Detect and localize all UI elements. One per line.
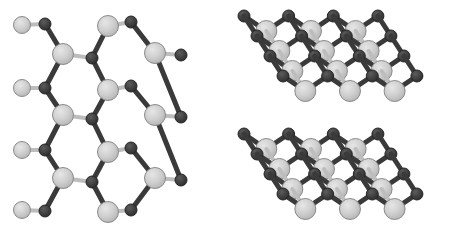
atom-sphere <box>175 111 187 123</box>
atom-sphere <box>39 205 51 217</box>
atom-light <box>145 168 166 189</box>
atom-dark <box>277 188 289 200</box>
atom-light <box>384 199 405 220</box>
atom-dark <box>277 70 289 82</box>
atom-dark <box>411 188 423 200</box>
atom-dark <box>125 204 137 216</box>
atom-light <box>295 81 316 102</box>
atom-dark <box>125 16 137 28</box>
atom-sphere <box>53 105 74 126</box>
atom-light <box>53 105 74 126</box>
atom-sphere <box>384 81 405 102</box>
atom-sphere <box>98 202 119 223</box>
atom-light <box>295 199 316 220</box>
atom-sphere <box>145 43 166 64</box>
atom-light <box>384 81 405 102</box>
atom-dark <box>86 52 98 64</box>
atom-light <box>98 202 119 223</box>
atom-sphere <box>125 204 137 216</box>
atom-sphere <box>277 70 289 82</box>
atom-sphere <box>86 176 98 188</box>
atom-light <box>53 44 74 65</box>
atom-sphere <box>277 188 289 200</box>
atom-light <box>339 199 360 220</box>
atom-dark <box>125 142 137 154</box>
atom-sphere <box>175 174 187 186</box>
atom-sphere <box>14 142 31 159</box>
atom-sphere <box>339 199 360 220</box>
atom-sphere <box>366 70 378 82</box>
atom-sphere <box>39 18 51 30</box>
atom-dark <box>322 70 334 82</box>
atom-dark <box>175 111 187 123</box>
atom-dark <box>175 49 187 61</box>
atom-sphere <box>86 52 98 64</box>
atom-light <box>14 142 31 159</box>
structure-canvas <box>0 0 462 236</box>
atom-sphere <box>125 16 137 28</box>
atom-sphere <box>14 202 31 219</box>
atom-light <box>14 80 31 97</box>
atom-dark <box>86 176 98 188</box>
atom-light <box>145 43 166 64</box>
atom-sphere <box>14 17 31 34</box>
atom-dark <box>322 188 334 200</box>
atom-dark <box>175 174 187 186</box>
atom-sphere <box>145 168 166 189</box>
atom-sphere <box>53 168 74 189</box>
atom-sphere <box>411 188 423 200</box>
atom-sphere <box>366 188 378 200</box>
atom-dark <box>86 113 98 125</box>
atom-sphere <box>98 16 119 37</box>
atom-sphere <box>295 199 316 220</box>
atom-dark <box>366 188 378 200</box>
atom-sphere <box>145 105 166 126</box>
atom-sphere <box>53 44 74 65</box>
atom-sphere <box>98 80 119 101</box>
atom-sphere <box>411 70 423 82</box>
crystal-structure-figure <box>0 0 462 236</box>
atom-sphere <box>125 142 137 154</box>
atom-dark <box>39 205 51 217</box>
atom-dark <box>125 80 137 92</box>
atom-sphere <box>14 80 31 97</box>
atom-light <box>98 16 119 37</box>
atom-sphere <box>86 113 98 125</box>
atom-sphere <box>175 49 187 61</box>
atom-dark <box>366 70 378 82</box>
atom-light <box>145 105 166 126</box>
atom-sphere <box>339 81 360 102</box>
atom-sphere <box>295 81 316 102</box>
atom-light <box>98 142 119 163</box>
atom-sphere <box>39 82 51 94</box>
atom-light <box>339 81 360 102</box>
atom-dark <box>39 144 51 156</box>
atom-sphere <box>98 142 119 163</box>
atom-sphere <box>384 199 405 220</box>
atom-light <box>14 17 31 34</box>
atom-light <box>98 80 119 101</box>
atom-sphere <box>39 144 51 156</box>
atom-dark <box>39 82 51 94</box>
atom-dark <box>411 70 423 82</box>
atom-light <box>53 168 74 189</box>
atom-sphere <box>322 70 334 82</box>
atom-dark <box>39 18 51 30</box>
atom-light <box>14 202 31 219</box>
atom-sphere <box>322 188 334 200</box>
atom-sphere <box>125 80 137 92</box>
